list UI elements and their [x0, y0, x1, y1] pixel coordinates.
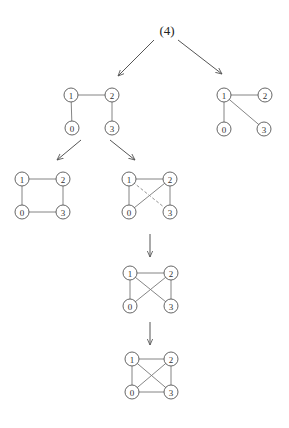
node-2: 2	[163, 172, 177, 186]
arrow-1	[178, 40, 222, 74]
node-1: 1	[64, 88, 78, 102]
graph-E: 1203	[123, 266, 178, 313]
node-1: 1	[15, 172, 29, 186]
node-label: 1	[128, 269, 133, 279]
node-2: 2	[164, 352, 178, 366]
node-1: 1	[217, 88, 231, 102]
node-label: 2	[110, 91, 115, 101]
node-3: 3	[164, 385, 178, 399]
node-2: 2	[105, 88, 119, 102]
node-2: 2	[258, 88, 272, 102]
graph-A: 1203	[64, 88, 119, 135]
node-label: 0	[127, 208, 132, 218]
graph-F: 1203	[125, 352, 178, 399]
node-0: 0	[123, 299, 137, 313]
graph-C: 1203	[15, 172, 70, 219]
node-0: 0	[65, 121, 79, 135]
node-label: 3	[262, 125, 267, 135]
node-label: 1	[69, 91, 74, 101]
node-label: 3	[168, 208, 173, 218]
node-0: 0	[217, 122, 231, 136]
node-0: 0	[15, 205, 29, 219]
arrow-0	[118, 40, 154, 76]
node-label: 2	[61, 175, 66, 185]
node-label: 0	[128, 302, 133, 312]
node-label: 3	[110, 124, 115, 134]
node-label: 2	[169, 269, 174, 279]
node-label: 0	[130, 388, 135, 398]
node-2: 2	[56, 172, 70, 186]
node-1: 1	[122, 172, 136, 186]
arrow-2	[57, 140, 81, 160]
node-label: 3	[169, 388, 174, 398]
node-label: 1	[127, 175, 132, 185]
edge-1-3	[224, 95, 264, 129]
node-label: 3	[61, 208, 66, 218]
node-3: 3	[105, 121, 119, 135]
root-label: (4)	[159, 23, 174, 38]
node-label: 0	[70, 124, 75, 134]
node-label: 0	[20, 208, 25, 218]
graph-derivation-diagram: 120312031203120312031203 (4)	[0, 0, 289, 428]
node-3: 3	[257, 122, 271, 136]
node-label: 2	[168, 175, 173, 185]
graph-D: 1203	[122, 172, 177, 219]
node-0: 0	[125, 385, 139, 399]
node-0: 0	[122, 205, 136, 219]
node-3: 3	[163, 205, 177, 219]
arrows	[57, 40, 222, 345]
node-1: 1	[123, 266, 137, 280]
node-label: 2	[263, 91, 268, 101]
node-label: 1	[130, 355, 135, 365]
node-label: 2	[169, 355, 174, 365]
graph-B: 1203	[217, 88, 272, 136]
node-label: 0	[222, 125, 227, 135]
node-3: 3	[164, 299, 178, 313]
node-label: 1	[222, 91, 227, 101]
node-label: 1	[20, 175, 25, 185]
arrow-3	[110, 140, 135, 160]
node-2: 2	[164, 266, 178, 280]
node-label: 3	[169, 302, 174, 312]
node-3: 3	[56, 205, 70, 219]
node-1: 1	[125, 352, 139, 366]
graphs: 120312031203120312031203	[15, 88, 272, 399]
